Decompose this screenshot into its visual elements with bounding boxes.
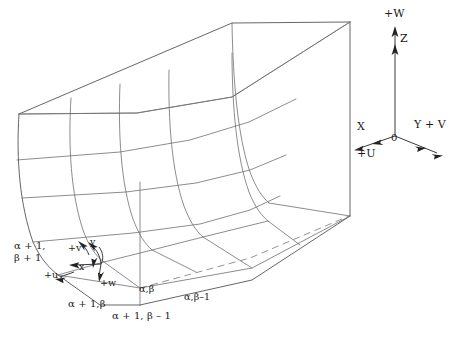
base-rib-4: [268, 221, 300, 245]
diagram-canvas: [0, 0, 463, 340]
label-node-alpha-beta: α,β: [139, 283, 154, 294]
label-global-x: X: [357, 121, 365, 134]
label-local-w: +w: [100, 277, 116, 288]
label-local-u: +u: [44, 269, 58, 280]
shell-circumferential-4: [33, 196, 280, 242]
global-axis-yv-arrowhead: [432, 154, 443, 159]
label-node-alpha1-beta1: α + 1, β + 1: [14, 240, 46, 264]
local-axis-y-tip-arrowhead: [91, 257, 97, 268]
label-node-alpha1-beta1-line2: β + 1: [14, 252, 46, 264]
base-rib-2: [152, 250, 196, 272]
global-axis-yv-shaft: [395, 136, 437, 153]
base-rib-3: [203, 237, 252, 268]
label-node-alpha-beta-minus1: α,β–1: [184, 291, 210, 302]
shell-top-front-edge: [19, 22, 350, 114]
label-global-z: Z: [400, 33, 408, 46]
shell-top-back-edge: [19, 22, 350, 114]
label-node-alpha1-beta1-line1: α + 1,: [14, 240, 46, 252]
label-global-origin: 0: [391, 132, 397, 144]
shell-generator-6: [232, 23, 269, 203]
label-local-x: x: [79, 261, 84, 272]
label-local-v: +v: [68, 242, 82, 253]
label-local-y: y: [90, 236, 95, 247]
shell-circumferential-1: [19, 22, 350, 114]
label-global-u: +U: [357, 148, 376, 161]
shell-circumferential-2: [17, 99, 296, 160]
shell-generator-3: [119, 84, 152, 250]
label-node-alpha1-beta-minus1: α + 1, β – 1: [112, 310, 171, 322]
base-rib-5: [269, 203, 350, 216]
label-global-yv: Y + V: [414, 119, 446, 132]
shell-generator-4: [169, 70, 203, 237]
label-global-w: +W: [384, 8, 405, 21]
shell-element-diagram: +W Z 0 Y + V X +U y +v x +u +w α + 1, β …: [0, 0, 463, 340]
label-node-alpha1-beta: α + 1,β: [68, 298, 106, 310]
